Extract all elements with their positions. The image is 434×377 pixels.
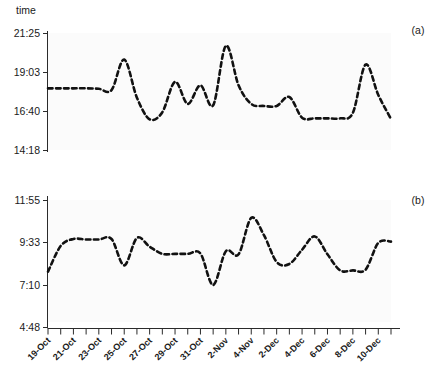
x-tick-label: 23-Oct: [76, 335, 103, 362]
panel-b-ytick-label-3: 4:48: [20, 321, 41, 333]
x-tick-label: 25-Oct: [102, 335, 129, 362]
x-tick-label: 4-Dec: [282, 335, 306, 359]
panel-a-ytick-label-0: 21:25: [14, 27, 40, 39]
panel-b-tag: (b): [412, 194, 425, 206]
panel-a-tag: (a): [412, 24, 425, 36]
panel-b-ytick-label-0: 11:55: [15, 194, 41, 206]
x-tick-label: 29-Oct: [153, 335, 180, 362]
x-axis: [48, 329, 401, 335]
panel-b-ytick-label-1: 9:33: [20, 236, 41, 248]
x-tick-label: 6-Dec: [307, 335, 331, 359]
x-tick-label: 10-Dec: [355, 335, 383, 363]
panel-a-plot-background: [48, 33, 391, 150]
panel-b-y-ticks: [43, 201, 48, 328]
x-tick-label: 21-Oct: [51, 335, 78, 362]
panel-a-y-ticks: [43, 34, 48, 151]
panel-b: 11:55 9:33 7:10 4:48 (b): [15, 194, 425, 333]
panel-a-ytick-label-1: 19:03: [14, 66, 40, 78]
x-tick-label: 2-Nov: [206, 335, 231, 360]
y-axis-unit-label: time: [16, 4, 36, 16]
x-tick-label: 19-Oct: [26, 335, 53, 362]
panel-a-ytick-label-2: 16:40: [14, 105, 40, 117]
x-tick-label: 27-Oct: [127, 335, 154, 362]
x-axis-tick-labels: 19-Oct21-Oct23-Oct25-Oct27-Oct29-Oct31-O…: [26, 335, 383, 363]
panel-a: 21:25 19:03 16:40 14:18 (a): [14, 24, 425, 156]
time-series-figure: time 21:25 19:03 16:40 14:18 (a) 11:55 9…: [0, 0, 434, 377]
panel-b-plot-background: [48, 200, 391, 322]
x-tick-label: 4-Nov: [231, 335, 256, 360]
x-tick-label: 2-Dec: [257, 335, 281, 359]
panel-a-ytick-label-3: 14:18: [14, 144, 40, 156]
panel-b-ytick-label-2: 7:10: [20, 279, 41, 291]
x-tick-label: 31-Oct: [178, 335, 205, 362]
x-axis-ticks: [48, 329, 391, 335]
